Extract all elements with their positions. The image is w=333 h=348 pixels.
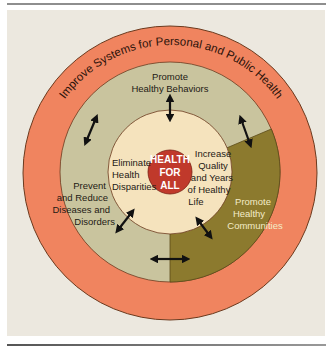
svg-text:Promote: Promote [235, 196, 271, 207]
svg-text:FOR: FOR [159, 167, 181, 178]
svg-text:Promote: Promote [152, 71, 188, 82]
svg-text:Life: Life [188, 196, 203, 207]
svg-text:and Reduce: and Reduce [57, 192, 108, 203]
svg-text:Healthy Behaviors: Healthy Behaviors [131, 83, 208, 94]
svg-text:ALL: ALL [160, 180, 179, 191]
svg-text:Healthy: Healthy [233, 208, 265, 219]
healthy-people-diagram: Improve Systems for Personal and Public … [0, 0, 333, 348]
svg-text:Prevent: Prevent [73, 180, 106, 191]
svg-text:Increase: Increase [195, 148, 231, 159]
svg-text:HEALTH: HEALTH [150, 154, 190, 165]
svg-text:and Years: and Years [191, 172, 234, 183]
svg-text:of Healthy: of Healthy [188, 184, 231, 195]
svg-text:Disorders: Disorders [74, 216, 115, 227]
svg-text:Diseases and: Diseases and [52, 204, 110, 215]
svg-text:Health: Health [112, 169, 139, 180]
svg-text:Quality: Quality [198, 160, 228, 171]
svg-text:Disparities: Disparities [112, 181, 157, 192]
svg-text:Eliminate: Eliminate [112, 157, 151, 168]
bottom-rule [7, 344, 326, 346]
svg-text:Communities: Communities [227, 220, 283, 231]
